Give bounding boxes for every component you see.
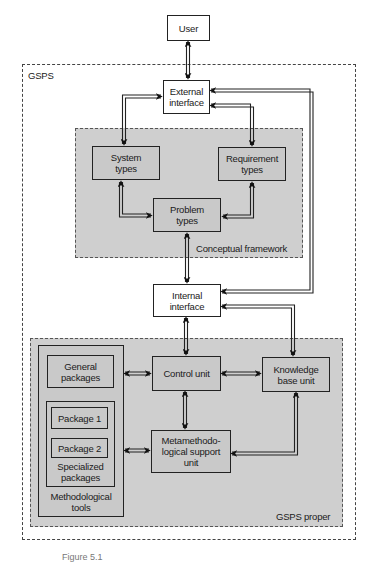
user-node: User [167, 15, 210, 41]
package-2-label: Package 2 [58, 443, 101, 454]
requirement-types-node: Requirement types [218, 147, 286, 181]
knowledge-base-unit-node: Knowledge base unit [262, 357, 330, 392]
general-packages-label: General packages [56, 361, 106, 383]
problem-types-node: Problem types [153, 198, 221, 232]
external-interface-node: External interface [163, 80, 210, 114]
internal-interface-node: Internal interface [153, 284, 221, 317]
package-1-label: Package 1 [58, 413, 101, 424]
package-2-node: Package 2 [51, 438, 108, 458]
package-1-node: Package 1 [51, 407, 108, 429]
control-unit-label: Control unit [163, 368, 209, 379]
metamethodological-support-unit-node: Metamethodo- logical support unit [151, 430, 231, 473]
control-unit-node: Control unit [152, 356, 221, 391]
user-label: User [179, 23, 198, 34]
metamethodological-support-unit-label: Metamethodo- logical support unit [156, 435, 226, 468]
methodological-tools-label: Methodological tools [41, 491, 121, 513]
internal-interface-label: Internal interface [165, 290, 209, 312]
system-types-node: System types [92, 146, 160, 180]
specialized-packages-label: Specialized packages [51, 461, 111, 483]
external-interface-label: External interface [165, 86, 209, 108]
requirement-types-label: Requirement types [219, 153, 285, 175]
problem-types-label: Problem types [165, 204, 209, 226]
system-types-label: System types [106, 152, 146, 174]
figure-caption: Figure 5.1 [62, 552, 103, 562]
general-packages-node: General packages [47, 355, 114, 388]
knowledge-base-unit-label: Knowledge base unit [268, 364, 324, 386]
